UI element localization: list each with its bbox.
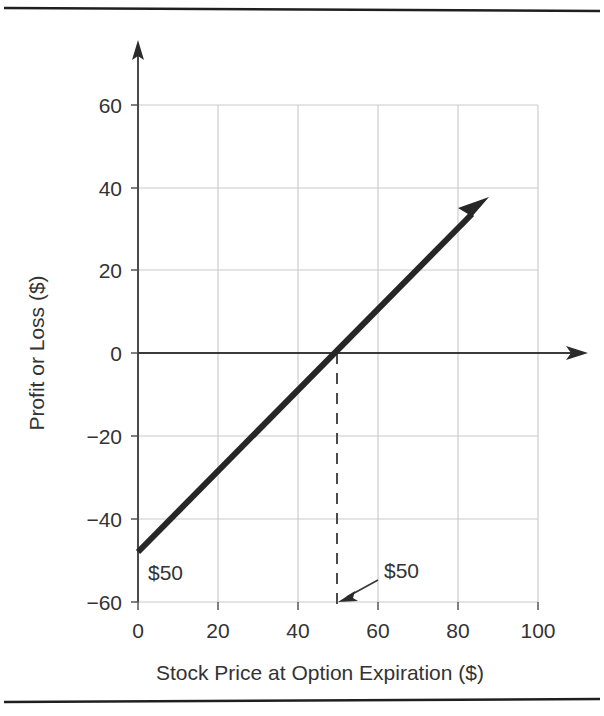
x-axis-title: Stock Price at Option Expiration ($) xyxy=(156,661,484,684)
y-tick-label-6: −60 xyxy=(86,591,122,614)
x-tick-label-4: 80 xyxy=(446,619,469,642)
x-tick-label-5: 100 xyxy=(520,619,555,642)
y-tick-label-2: 20 xyxy=(99,259,122,282)
premium-annotation-label: $50 xyxy=(148,561,183,584)
y-tick-label-0: 60 xyxy=(99,94,122,117)
x-tick-label-3: 60 xyxy=(366,619,389,642)
y-axis-title: Profit or Loss ($) xyxy=(25,275,48,430)
y-tick-label-4: −20 xyxy=(86,425,122,448)
x-tick-label-1: 20 xyxy=(206,619,229,642)
chart-figure: 60 40 20 0 −20 −40 −60 0 20 40 60 80 100… xyxy=(0,0,604,716)
y-tick-label-3: 0 xyxy=(110,342,122,365)
strike-annotation-label: $50 xyxy=(384,559,419,582)
y-tick-label-1: 40 xyxy=(99,177,122,200)
chart-svg: 60 40 20 0 −20 −40 −60 0 20 40 60 80 100… xyxy=(0,0,604,716)
x-tick-label-0: 0 xyxy=(132,619,144,642)
x-tick-label-2: 40 xyxy=(286,619,309,642)
y-tick-label-5: −40 xyxy=(86,508,122,531)
